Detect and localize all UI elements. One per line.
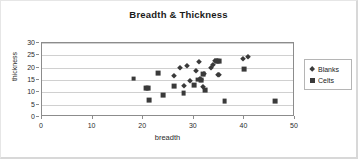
y-tick-label: 20 xyxy=(27,63,35,70)
x-tick-label: 30 xyxy=(189,122,197,129)
data-point xyxy=(198,77,203,82)
x-tick-label: 0 xyxy=(39,122,43,129)
chart-legend: BlanksCelts xyxy=(304,59,352,90)
y-tick-mark xyxy=(36,91,39,92)
x-tick-label: 50 xyxy=(290,122,298,129)
x-tick-mark xyxy=(142,116,143,119)
diamond-marker-icon xyxy=(308,67,317,71)
y-tick-mark xyxy=(36,116,39,117)
data-point xyxy=(217,59,222,64)
gridline xyxy=(42,92,293,93)
x-tick-mark xyxy=(243,116,244,119)
gridline xyxy=(42,43,293,44)
data-point xyxy=(156,71,161,76)
data-point xyxy=(201,71,206,76)
data-point xyxy=(161,93,166,98)
data-point xyxy=(203,88,208,93)
x-tick-mark xyxy=(294,116,295,119)
x-tick-label: 40 xyxy=(239,122,247,129)
data-point xyxy=(241,66,246,71)
plot-area xyxy=(41,42,294,116)
data-point xyxy=(196,59,202,65)
data-point xyxy=(181,83,187,89)
data-point xyxy=(131,76,136,81)
x-tick-mark xyxy=(193,116,194,119)
data-point xyxy=(191,83,196,88)
gridline xyxy=(42,105,293,106)
y-tick-label: 25 xyxy=(27,51,35,58)
x-tick-label: 20 xyxy=(138,122,146,129)
data-point xyxy=(177,65,183,71)
y-tick-label: 0 xyxy=(31,113,35,120)
y-tick-label: 10 xyxy=(27,88,35,95)
chart-title: Breadth & Thickness xyxy=(1,9,356,20)
x-tick-mark xyxy=(92,116,93,119)
y-tick-mark xyxy=(36,54,39,55)
x-tick-label: 10 xyxy=(88,122,96,129)
data-point xyxy=(216,71,222,77)
y-tick-label: 15 xyxy=(27,76,35,83)
data-point xyxy=(146,85,151,90)
gridline xyxy=(42,80,293,81)
gridline xyxy=(42,55,293,56)
y-tick-label: 5 xyxy=(31,100,35,107)
data-point xyxy=(222,99,227,104)
chart-figure: Breadth & Thickness 051015202530 thickne… xyxy=(0,0,358,159)
x-axis: 01020304050 xyxy=(41,116,294,130)
y-axis: 051015202530 xyxy=(1,42,39,116)
y-tick-mark xyxy=(36,104,39,105)
data-point xyxy=(193,68,199,74)
data-point xyxy=(172,84,177,89)
y-tick-mark xyxy=(36,79,39,80)
square-marker-icon xyxy=(308,78,317,83)
data-point xyxy=(181,90,186,95)
legend-label: Blanks xyxy=(318,66,339,73)
legend-label: Celts xyxy=(318,77,334,84)
y-tick-label: 30 xyxy=(27,39,35,46)
x-tick-mark xyxy=(41,116,42,119)
legend-item[interactable]: Blanks xyxy=(308,64,349,74)
y-axis-label: thickness xyxy=(11,37,18,97)
legend-item[interactable]: Celts xyxy=(308,75,349,85)
y-tick-mark xyxy=(36,42,39,43)
y-tick-mark xyxy=(36,67,39,68)
gridline xyxy=(42,68,293,69)
x-axis-label: breadth xyxy=(41,133,294,142)
data-point xyxy=(170,73,176,79)
data-point xyxy=(147,98,152,103)
data-point xyxy=(272,99,277,104)
